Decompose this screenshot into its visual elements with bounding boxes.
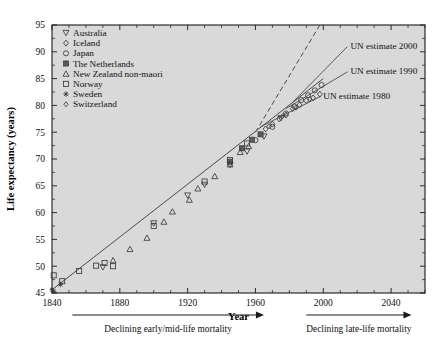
chart-root: 1840188019201960200020404550556065707580… [0, 0, 438, 349]
x-tick-label: 1840 [43, 298, 62, 308]
y-tick-label: 50 [36, 262, 46, 272]
footnotes-layer: Declining early/mid-life mortalityDeclin… [72, 311, 411, 334]
x-tick-label: 2000 [314, 298, 333, 308]
footnote-arrowhead [256, 311, 264, 318]
x-tick-label: 1880 [110, 298, 129, 308]
y-tick-label: 80 [36, 101, 46, 111]
legend-item-label: Sweden [73, 89, 102, 99]
annotation-label: UN estimate 2000 [350, 41, 417, 51]
footnote-arrowhead [403, 311, 411, 318]
legend-item-label: Australia [73, 28, 107, 38]
y-tick-label: 90 [36, 47, 46, 57]
x-tick-label: 1960 [246, 298, 265, 308]
y-tick-label: 55 [36, 235, 46, 245]
x-tick-label: 1920 [178, 298, 197, 308]
footnote-caption: Declining early/mid-life mortality [104, 324, 232, 334]
legend-item-label: Switzerland [73, 99, 117, 109]
x-axis-title: Year [228, 311, 249, 322]
life-expectancy-scatter-chart: 1840188019201960200020404550556065707580… [0, 0, 438, 349]
y-tick-label: 45 [36, 288, 46, 298]
y-tick-label: 85 [36, 74, 46, 84]
legend-item-label: Japan [73, 48, 94, 58]
footnote-caption: Declining late-life mortality [306, 324, 411, 334]
annotation-label: UN estimate 1990 [350, 66, 417, 76]
y-axis-title: Life expectancy (years) [5, 107, 17, 211]
legend-item-label: Norway [73, 79, 103, 89]
annotation-label: UN estimate 1980 [323, 91, 390, 101]
y-tick-label: 65 [36, 181, 46, 191]
y-tick-label: 75 [36, 128, 46, 138]
y-tick-label: 70 [36, 154, 46, 164]
legend-item-label: New Zealand non-maori [73, 69, 163, 79]
x-tick-label: 2040 [382, 298, 401, 308]
y-tick-label: 95 [36, 20, 46, 30]
y-tick-label: 60 [36, 208, 46, 218]
legend-item-label: The Netherlands [73, 59, 134, 69]
legend-item-label: Iceland [73, 38, 100, 48]
